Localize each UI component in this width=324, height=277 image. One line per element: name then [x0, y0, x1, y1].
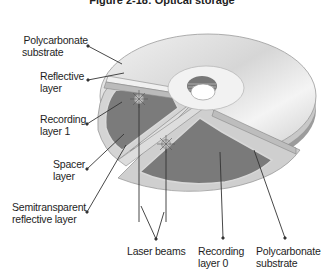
label-laser-beams: Laser beams — [127, 245, 186, 257]
label-recording-layer-0: Recording layer 0 — [198, 245, 244, 269]
disc-hub — [168, 66, 244, 110]
label-polycarbonate-substrate-bottom: Polycarbonate substrate — [256, 245, 321, 269]
label-polycarbonate-substrate-top: Polycarbonate substrate — [8, 34, 88, 58]
label-spacer-layer: Spacer layer — [53, 158, 85, 182]
label-recording-layer-1: Recording layer 1 — [40, 113, 86, 137]
label-reflective-layer: Reflective layer — [40, 70, 84, 94]
label-semitransparent-reflective-layer: Semitransparent reflective layer — [12, 201, 86, 225]
